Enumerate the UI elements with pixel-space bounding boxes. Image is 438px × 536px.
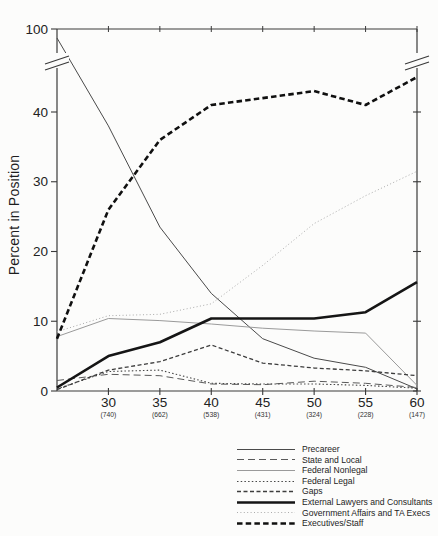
x-tick-label: 45 — [255, 395, 270, 410]
legend-swatch — [237, 508, 295, 517]
x-tick-label: 30 — [101, 395, 116, 410]
y-tick-label: 40 — [33, 105, 48, 120]
legend-item: Executives/Staff — [237, 518, 432, 529]
series-state-and-local — [57, 374, 417, 387]
y-tick-label: 10 — [33, 314, 48, 329]
y-axis-title: Percent in Position — [6, 155, 22, 276]
legend-swatch — [237, 519, 295, 528]
x-tick-count: (740) — [100, 411, 116, 419]
x-tick-count: (324) — [306, 411, 322, 419]
y-tick-label: 0 — [40, 384, 48, 399]
legend-swatch — [237, 466, 295, 475]
series-government-affairs-and-ta-execs — [57, 171, 417, 331]
chart-legend: PrecareerState and LocalFederal Nonlegal… — [237, 444, 432, 529]
y-tick-label-100: 100 — [25, 22, 48, 37]
x-tick-count: (538) — [203, 411, 219, 419]
legend-label: Precareer — [302, 444, 340, 455]
series-federal-legal — [57, 370, 417, 389]
legend-label: State and Local — [302, 455, 362, 466]
legend-swatch — [237, 455, 295, 464]
legend-label: Government Affairs and TA Execs — [302, 508, 430, 519]
legend-swatch — [237, 487, 295, 496]
x-tick-label: 35 — [152, 395, 167, 410]
x-tick-count: (147) — [409, 411, 425, 419]
y-tick-label: 30 — [33, 174, 48, 189]
x-tick-count: (431) — [255, 411, 271, 419]
series-federal-nonlegal — [57, 319, 417, 386]
legend-item: Precareer — [237, 444, 432, 455]
legend-item: Federal Legal — [237, 476, 432, 487]
x-tick-label: 50 — [307, 395, 322, 410]
legend-label: Gaps — [302, 486, 323, 497]
series-precareer — [57, 38, 417, 389]
legend-swatch — [237, 498, 295, 507]
legend-label: Federal Nonlegal — [302, 465, 367, 476]
x-tick-label: 40 — [204, 395, 219, 410]
x-tick-label: 60 — [409, 395, 424, 410]
legend-item: External Lawyers and Consultants — [237, 497, 432, 508]
legend-item: State and Local — [237, 455, 432, 466]
series-executives-staff — [57, 77, 417, 339]
legend-label: Federal Legal — [302, 476, 355, 487]
legend-label: External Lawyers and Consultants — [302, 497, 432, 508]
x-tick-label: 55 — [358, 395, 373, 410]
legend-swatch — [237, 477, 295, 486]
legend-label: Executives/Staff — [302, 518, 363, 529]
legend-item: Gaps — [237, 486, 432, 497]
legend-item: Government Affairs and TA Execs — [237, 508, 432, 519]
legend-item: Federal Nonlegal — [237, 465, 432, 476]
x-tick-count: (662) — [152, 411, 168, 419]
legend-swatch — [237, 445, 295, 454]
x-tick-count: (228) — [358, 411, 374, 419]
figure-container: 01020304010030(740)35(662)40(538)45(431)… — [0, 0, 438, 536]
y-tick-label: 20 — [33, 244, 48, 259]
